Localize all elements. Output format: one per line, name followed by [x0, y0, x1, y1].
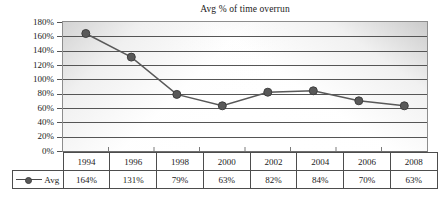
table-data-cell: 70%	[344, 171, 391, 189]
y-axis-tick-label: 40%	[6, 117, 54, 127]
table-header-cell: 2004	[297, 153, 344, 171]
data-point-marker	[127, 53, 135, 61]
data-point-marker	[264, 88, 272, 96]
y-axis-tick-label: 80%	[6, 88, 54, 98]
table-header-cell: 2002	[250, 153, 297, 171]
chart-container: Avg % of time overrun 180%160%140%120%10…	[0, 0, 446, 198]
table-data-cell: 82%	[250, 171, 297, 189]
data-point-marker	[355, 97, 363, 105]
table-data-cell: 131%	[110, 171, 157, 189]
data-point-marker	[309, 87, 317, 95]
data-point-marker	[82, 30, 90, 38]
y-axis-tick-label: 180%	[6, 17, 54, 27]
y-axis-tick-label: 140%	[6, 45, 54, 55]
table-row-avg: Avg 164%131%79%63%82%84%70%63%	[13, 171, 438, 189]
legend-avg: Avg	[13, 171, 64, 189]
legend-line-icon	[16, 175, 42, 184]
table-header-cell: 1998	[157, 153, 204, 171]
table-data-cell: 84%	[297, 171, 344, 189]
table-header-cell: 1996	[110, 153, 157, 171]
line-series-avg	[63, 22, 427, 151]
page-title: Avg % of time overrun	[60, 4, 430, 14]
table-data-cell: 79%	[157, 171, 204, 189]
table-data-cell: 63%	[203, 171, 250, 189]
y-axis-tick-label: 20%	[6, 131, 54, 141]
table-row-header: 19941996199820002002200420062008	[13, 153, 438, 171]
y-axis-tick-label: 160%	[6, 31, 54, 41]
y-axis-tick-label: 120%	[6, 60, 54, 70]
y-axis-tick-label: 60%	[6, 103, 54, 113]
table-header-cell: 2000	[203, 153, 250, 171]
table-header-cell: 2006	[344, 153, 391, 171]
table-header-cell: 1994	[63, 153, 110, 171]
table-corner-blank	[13, 153, 64, 171]
plot-area	[62, 21, 428, 152]
data-point-marker	[218, 102, 226, 110]
data-point-marker	[400, 102, 408, 110]
table-data-cell: 63%	[390, 171, 437, 189]
data-table: 19941996199820002002200420062008 Avg 164…	[12, 152, 438, 189]
legend-label-avg: Avg	[44, 175, 59, 185]
legend-marker-icon	[25, 177, 32, 184]
data-point-marker	[173, 90, 181, 98]
series-line-avg	[86, 34, 405, 106]
table-header-cell: 2008	[390, 153, 437, 171]
y-axis-tick-label: 100%	[6, 74, 54, 84]
table-data-cell: 164%	[63, 171, 110, 189]
